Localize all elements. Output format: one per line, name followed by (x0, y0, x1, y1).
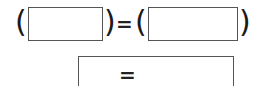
result-box[interactable]: = (78, 56, 234, 86)
result-equals-sign: = (119, 65, 136, 85)
answer-box-right[interactable] (148, 7, 238, 41)
close-paren-right: ) (239, 7, 251, 37)
open-paren-right: ( (135, 7, 147, 37)
close-paren-left: ) (104, 7, 116, 37)
open-paren-left: ( (15, 7, 27, 37)
answer-input-right[interactable] (149, 8, 237, 40)
answer-box-left[interactable] (28, 7, 103, 41)
equals-sign: = (116, 14, 133, 34)
answer-input-left[interactable] (29, 8, 102, 40)
